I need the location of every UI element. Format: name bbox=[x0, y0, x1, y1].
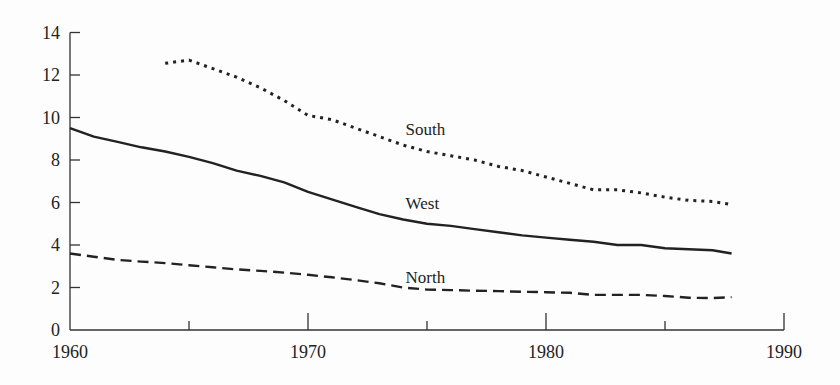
y-tick-label: 6 bbox=[51, 193, 60, 213]
y-tick-label: 12 bbox=[42, 65, 60, 85]
series-label-west: West bbox=[406, 194, 440, 213]
x-tick-label: 1980 bbox=[528, 342, 564, 362]
y-tick-label: 14 bbox=[42, 23, 60, 43]
series-line-north bbox=[70, 254, 732, 299]
line-chart: 024681012141960197019801990 SouthWestNor… bbox=[0, 0, 840, 385]
series-line-south bbox=[165, 60, 731, 205]
series-label-south: South bbox=[406, 120, 446, 139]
y-tick-label: 8 bbox=[51, 150, 60, 170]
y-tick-label: 10 bbox=[42, 108, 60, 128]
series-labels: SouthWestNorth bbox=[406, 120, 446, 288]
x-tick-label: 1970 bbox=[290, 342, 326, 362]
x-tick-label: 1960 bbox=[52, 342, 88, 362]
y-tick-label: 2 bbox=[51, 278, 60, 298]
axes: 024681012141960197019801990 bbox=[42, 23, 802, 363]
y-tick-label: 4 bbox=[51, 235, 60, 255]
y-tick-label: 0 bbox=[51, 320, 60, 340]
x-tick-label: 1990 bbox=[766, 342, 802, 362]
chart-canvas: 024681012141960197019801990 SouthWestNor… bbox=[0, 0, 840, 385]
series-lines bbox=[70, 60, 732, 298]
series-label-north: North bbox=[406, 268, 446, 287]
